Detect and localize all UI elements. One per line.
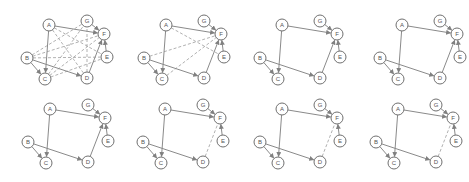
node-label: G	[85, 18, 90, 24]
node-G: G	[81, 15, 93, 27]
node-E: E	[102, 135, 114, 147]
node-D: D	[197, 156, 209, 168]
node-label: A	[280, 106, 284, 112]
node-C: C	[156, 73, 168, 85]
node-label: D	[318, 75, 323, 81]
node-label: E	[338, 138, 342, 144]
node-label: E	[106, 138, 110, 144]
edge-B-C	[31, 63, 41, 75]
edge-B-F	[150, 36, 215, 56]
node-label: E	[222, 54, 226, 60]
node-E: E	[334, 51, 346, 63]
node-B: B	[254, 136, 266, 148]
edge-G-F	[93, 109, 100, 115]
edge-B-C	[384, 63, 394, 75]
node-B: B	[138, 52, 150, 64]
node-label: D	[434, 159, 439, 165]
edge-A-C	[162, 115, 165, 157]
node-A: A	[159, 103, 171, 115]
edge-D-F	[206, 40, 219, 72]
edge-A-C	[279, 31, 282, 73]
node-label: F	[451, 115, 455, 121]
node-label: D	[318, 159, 323, 165]
node-label: A	[280, 22, 284, 28]
edge-A-C	[395, 115, 398, 157]
graph-panel-5: AGFEBCD	[22, 99, 114, 169]
node-label: B	[378, 55, 382, 61]
edge-C-F	[50, 38, 99, 76]
node-label: C	[159, 160, 164, 166]
node-label: B	[142, 55, 146, 61]
node-D: D	[314, 72, 326, 84]
graph-panel-6: AGFEBCD	[137, 99, 229, 169]
node-label: C	[160, 76, 165, 82]
node-label: B	[258, 139, 262, 145]
edge-B-C	[32, 147, 42, 159]
node-G: G	[82, 99, 94, 111]
node-F: F	[214, 112, 226, 124]
node-label: G	[318, 102, 323, 108]
panels-container: AGFEBCDAGFEBCDAGFEBCDAGFEBCDAGFEBCDAGFEB…	[21, 15, 466, 169]
node-C: C	[272, 73, 284, 85]
edge-G-F	[92, 25, 99, 31]
node-label: C	[396, 76, 401, 82]
edge-B-E	[33, 57, 101, 58]
edge-B-C	[148, 63, 158, 75]
node-D: D	[81, 72, 93, 84]
node-label: E	[338, 54, 342, 60]
edge-A-F	[56, 110, 99, 117]
edge-B-C	[147, 147, 157, 159]
node-E: E	[217, 135, 229, 147]
node-C: C	[272, 157, 284, 169]
edge-G-F	[325, 25, 332, 31]
node-label: A	[400, 22, 404, 28]
node-F: F	[331, 28, 343, 40]
node-D: D	[430, 156, 442, 168]
node-label: A	[396, 106, 400, 112]
node-F: F	[98, 28, 110, 40]
node-G: G	[314, 99, 326, 111]
graph-panel-4: AGFEBCD	[374, 15, 466, 85]
node-label: F	[219, 31, 223, 37]
node-B: B	[254, 52, 266, 64]
node-C: C	[388, 157, 400, 169]
edge-B-C	[264, 63, 274, 75]
edge-A-F	[288, 26, 331, 33]
node-B: B	[370, 136, 382, 148]
node-label: A	[164, 22, 168, 28]
node-label: B	[25, 55, 29, 61]
node-A: A	[160, 19, 172, 31]
node-C: C	[155, 157, 167, 169]
edge-A-C	[279, 115, 282, 157]
node-B: B	[22, 136, 34, 148]
node-label: E	[221, 138, 225, 144]
graph-figure: AGFEBCDAGFEBCDAGFEBCDAGFEBCDAGFEBCDAGFEB…	[0, 0, 469, 182]
node-label: D	[201, 159, 206, 165]
edge-E-F	[105, 40, 106, 51]
node-label: F	[455, 31, 459, 37]
node-A: A	[392, 103, 404, 115]
graph-panel-8: AGFEBCD	[370, 99, 462, 169]
edge-E-F	[222, 40, 223, 51]
node-label: G	[438, 18, 443, 24]
node-D: D	[82, 156, 94, 168]
node-D: D	[314, 156, 326, 168]
node-label: F	[102, 31, 106, 37]
edge-B-C	[264, 147, 274, 159]
node-F: F	[331, 112, 343, 124]
edge-D-F	[89, 40, 102, 72]
node-label: D	[438, 75, 443, 81]
node-label: B	[26, 139, 30, 145]
node-G: G	[314, 15, 326, 27]
node-E: E	[101, 51, 113, 63]
node-label: D	[86, 159, 91, 165]
edge-E-F	[338, 124, 339, 135]
edge-D-F	[322, 124, 335, 156]
node-label: F	[218, 115, 222, 121]
edge-A-F	[171, 110, 214, 117]
node-label: D	[202, 75, 207, 81]
node-F: F	[447, 112, 459, 124]
node-A: A	[276, 103, 288, 115]
node-label: C	[392, 160, 397, 166]
edge-C-F	[167, 38, 216, 76]
